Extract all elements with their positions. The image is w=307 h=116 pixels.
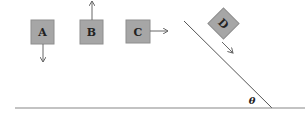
block-c: C: [126, 20, 168, 43]
block-a-label: A: [37, 26, 47, 39]
physics-diagram: A B C D θ: [0, 0, 307, 116]
block-d: D: [208, 8, 239, 39]
diagram-svg: A B C D θ: [0, 0, 307, 116]
block-b-label: B: [87, 26, 96, 39]
angle-label: θ: [249, 95, 256, 106]
block-a: A: [31, 20, 54, 62]
arrow-incline-icon: [222, 42, 233, 53]
block-b: B: [80, 1, 103, 44]
block-c-label: C: [134, 26, 143, 39]
